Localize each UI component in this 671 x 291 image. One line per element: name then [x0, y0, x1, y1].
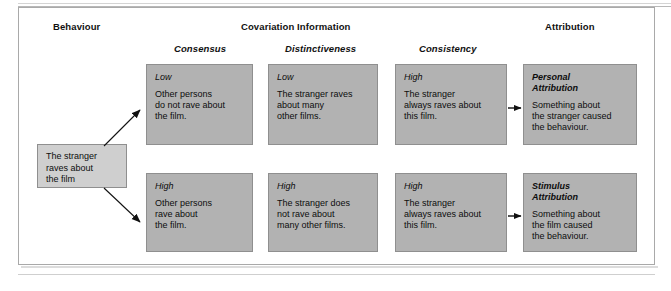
connector-arrows — [0, 0, 671, 291]
arrow-behaviour-to-consensus-row2 — [104, 188, 140, 222]
arrow-behaviour-to-consensus-row1 — [104, 110, 140, 146]
diagram-canvas: Behaviour Covariation Information Attrib… — [0, 0, 671, 291]
